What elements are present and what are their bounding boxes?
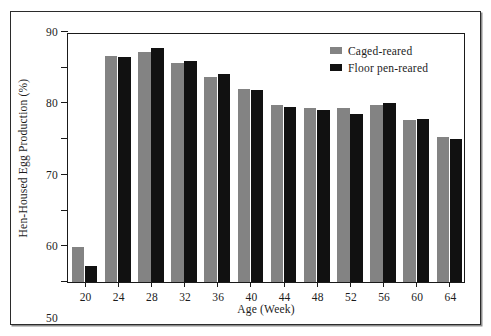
x-axis-tick: 32 [184,282,185,287]
x-axis-tick-label: 48 [312,291,324,303]
x-axis-tick: 56 [383,282,384,287]
x-axis-tick: 40 [250,282,251,287]
bar [450,139,463,282]
legend-swatch-icon [330,64,342,71]
bar [151,48,164,282]
bar [238,89,251,282]
y-axis-tick-label: 70 [46,169,58,181]
bar [251,90,264,283]
bar [271,105,284,282]
y-axis-tick: 40 [61,210,68,211]
y-axis-tick-label: 60 [46,240,58,252]
legend-swatch-icon [330,47,342,54]
bar [284,107,297,282]
x-axis-tick: 24 [118,282,119,287]
x-axis-tick: 28 [151,282,152,287]
x-axis-tick-label: 36 [212,291,224,303]
x-axis-tick-label: 20 [80,291,92,303]
bar [370,105,383,282]
y-axis-tick: 80 [61,67,68,68]
x-axis-tick-label: 32 [179,291,191,303]
legend-item-label: Floor pen-reared [348,62,428,74]
bar [138,52,151,282]
x-axis-tick-label: 44 [279,291,291,303]
x-axis-tick-label: 64 [444,291,456,303]
x-axis-tick: 44 [284,282,285,287]
bar [383,103,396,282]
y-axis-tick: 30 [61,245,68,246]
x-axis-tick: 20 [85,282,86,287]
bar [350,114,363,282]
y-axis-tick: 50 [61,174,68,175]
x-axis-tick-label: 24 [113,291,125,303]
y-axis-tick-label: 90 [46,26,58,38]
x-axis-tick-label: 56 [378,291,390,303]
bar [118,57,131,282]
x-axis-tick: 36 [217,282,218,287]
legend-item: Caged-reared [330,43,428,58]
bar [317,110,330,282]
y-axis-tick: 90 [61,31,68,32]
x-axis-tick: 48 [317,282,318,287]
x-axis-tick-label: 52 [345,291,357,303]
bar [184,61,197,282]
x-axis-tick: 52 [350,282,351,287]
x-axis-tick: 64 [449,282,450,287]
bar [72,247,85,282]
bar [171,63,184,282]
y-axis-tick-label: 50 [46,312,58,324]
bar [204,77,217,282]
y-axis-tick-label: 80 [46,97,58,109]
x-axis-tick-label: 60 [411,291,423,303]
legend-item-label: Caged-reared [348,45,412,57]
y-axis-title: Hen-Housed Egg Production (%) [15,33,31,283]
bar [403,120,416,283]
x-axis-tick: 60 [416,282,417,287]
y-axis-title-text: Hen-Housed Egg Production (%) [17,79,29,238]
bar [417,119,430,282]
bar [437,137,450,282]
x-axis-title-text: Age (Week) [237,303,295,315]
bar [218,74,231,282]
y-axis-tick: 70 [61,102,68,103]
chart-legend: Caged-rearedFloor pen-reared [330,43,428,77]
figure: Hen-Housed Egg Production (%) 2030405060… [0,0,491,336]
x-axis-title: Age (Week) [67,303,465,315]
x-axis-tick-label: 40 [245,291,257,303]
bar [105,56,118,282]
bar [85,266,98,282]
bar [337,108,350,282]
legend-item: Floor pen-reared [330,60,428,75]
y-axis-tick: 60 [61,138,68,139]
x-axis-tick-label: 28 [146,291,158,303]
y-axis-tick: 20 [61,281,68,282]
bar [304,108,317,282]
